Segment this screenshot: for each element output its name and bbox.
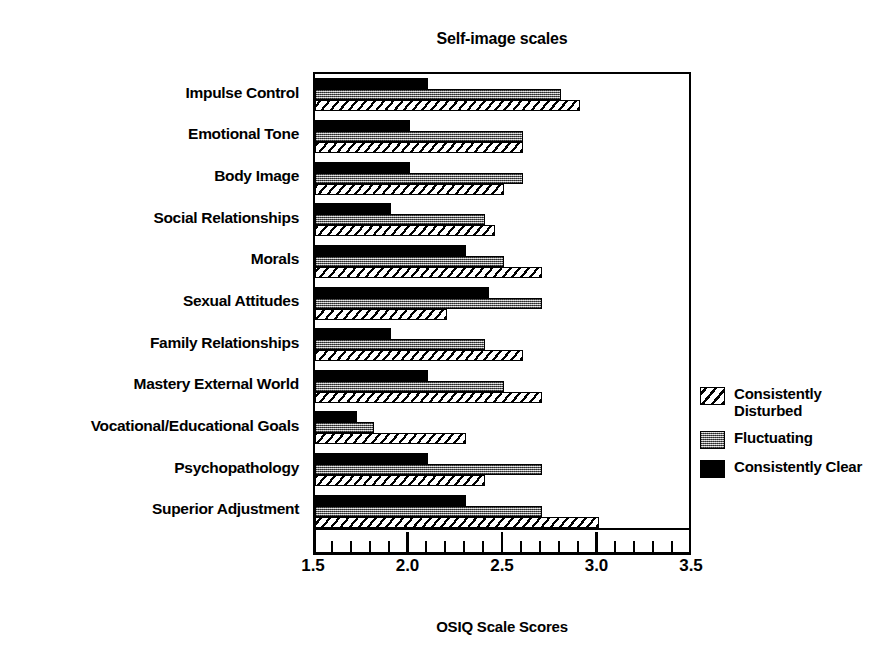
bar — [315, 433, 466, 444]
x-tick-minor — [444, 541, 446, 554]
bar — [315, 411, 357, 422]
bar — [315, 142, 523, 153]
category-label: Morals — [251, 250, 299, 268]
category-label: Emotional Tone — [188, 125, 299, 143]
bar — [315, 517, 599, 528]
bar — [315, 89, 561, 100]
x-tick-minor — [614, 541, 616, 554]
bar — [315, 214, 485, 225]
chart-legend: Consistently DisturbedFluctuatingConsist… — [700, 386, 870, 488]
bar — [315, 256, 504, 267]
x-tick-minor — [577, 541, 579, 554]
bar — [315, 131, 523, 142]
x-tick-minor — [633, 541, 635, 554]
bar — [315, 506, 542, 517]
bar — [315, 120, 410, 131]
legend-swatch-gray — [700, 431, 725, 449]
bars-layer — [315, 74, 689, 528]
category-label: Sexual Attitudes — [183, 292, 299, 310]
x-tick-minor — [388, 541, 390, 554]
category-label: Superior Adjustment — [152, 500, 299, 518]
x-tick-minor — [350, 541, 352, 554]
x-tick-minor — [331, 541, 333, 554]
bar — [315, 464, 542, 475]
x-axis: 1.52.02.53.03.5 — [313, 530, 691, 556]
bar-group — [315, 287, 689, 320]
x-tick-minor — [671, 541, 673, 554]
x-tick-label: 3.5 — [679, 556, 703, 576]
bar-group — [315, 120, 689, 153]
legend-swatch-hatch — [700, 387, 725, 405]
bar — [315, 100, 580, 111]
bar — [315, 225, 495, 236]
bar — [315, 339, 485, 350]
bar — [315, 245, 466, 256]
category-label: Impulse Control — [186, 84, 299, 102]
category-axis: Impulse ControlEmotional ToneBody ImageS… — [20, 72, 307, 530]
bar — [315, 203, 391, 214]
bar — [315, 392, 542, 403]
legend-entry: Consistently Disturbed — [700, 386, 870, 420]
bar — [315, 173, 523, 184]
x-axis-right-cap — [689, 530, 692, 554]
bar — [315, 328, 391, 339]
bar — [315, 267, 542, 278]
bar — [315, 381, 504, 392]
category-label: Body Image — [214, 167, 299, 185]
x-tick-label: 2.0 — [396, 556, 420, 576]
category-label: Psychopathology — [174, 459, 299, 477]
bar-group — [315, 495, 689, 528]
bar-group — [315, 411, 689, 444]
legend-label: Fluctuating — [734, 430, 813, 447]
chart-title: Self-image scales — [313, 30, 691, 48]
x-tick-minor — [369, 541, 371, 554]
bar-group — [315, 162, 689, 195]
category-label: Social Relationships — [153, 209, 299, 227]
legend-entry: Fluctuating — [700, 430, 870, 449]
bar-group — [315, 78, 689, 111]
x-axis-title: OSIQ Scale Scores — [313, 618, 691, 635]
category-label: Vocational/Educational Goals — [91, 417, 299, 435]
bar-group — [315, 203, 689, 236]
bar — [315, 475, 485, 486]
bar-group — [315, 453, 689, 486]
x-tick-minor — [652, 541, 654, 554]
x-tick-label: 2.5 — [490, 556, 514, 576]
bar — [315, 422, 374, 433]
x-tick-label: 1.5 — [301, 556, 325, 576]
bar — [315, 453, 428, 464]
category-label: Mastery External World — [134, 375, 299, 393]
x-tick-minor — [558, 541, 560, 554]
bar-group — [315, 245, 689, 278]
x-tick-minor — [463, 541, 465, 554]
bar — [315, 370, 428, 381]
bar — [315, 78, 428, 89]
x-tick-major — [501, 532, 503, 554]
legend-label: Consistently Disturbed — [734, 386, 870, 420]
category-label: Family Relationships — [150, 334, 299, 352]
x-axis-left-cap — [313, 530, 316, 554]
x-tick-major — [595, 532, 597, 554]
bar-group — [315, 328, 689, 361]
plot-area — [313, 72, 691, 530]
bar-group — [315, 370, 689, 403]
x-tick-minor — [482, 541, 484, 554]
bar — [315, 162, 410, 173]
legend-entry: Consistently Clear — [700, 459, 870, 478]
legend-label: Consistently Clear — [734, 459, 862, 476]
legend-swatch-black — [700, 460, 725, 478]
x-tick-minor — [425, 541, 427, 554]
bar — [315, 184, 504, 195]
bar — [315, 298, 542, 309]
bar — [315, 495, 466, 506]
x-tick-major — [406, 532, 408, 554]
bar — [315, 309, 447, 320]
x-tick-label: 3.0 — [585, 556, 609, 576]
x-tick-minor — [539, 541, 541, 554]
bar — [315, 287, 489, 298]
x-tick-minor — [520, 541, 522, 554]
bar — [315, 350, 523, 361]
